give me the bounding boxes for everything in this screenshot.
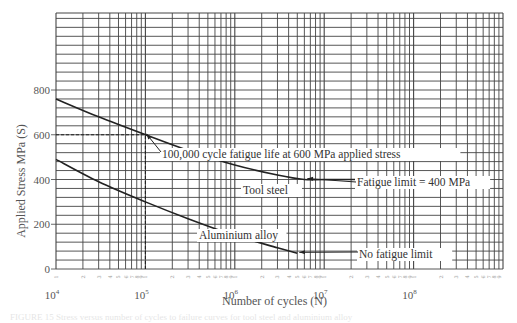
minor-tick-label: 4 bbox=[107, 275, 113, 278]
y-tick-label: 0 bbox=[45, 263, 51, 275]
y-axis-label: Applied Stress MPa (S) bbox=[14, 124, 28, 238]
minor-tick-label: 3 bbox=[364, 275, 370, 278]
minor-tick-label: 5 bbox=[473, 275, 479, 278]
figure-caption: FIGURE 15 Stress versus number of cycles… bbox=[10, 312, 352, 322]
y-tick-label: 600 bbox=[34, 129, 51, 141]
minor-tick-label: 5 bbox=[205, 275, 211, 278]
minor-tick-label: 4 bbox=[464, 275, 470, 278]
minor-tick-label: 4 bbox=[286, 275, 292, 278]
annotation-tool-steel: Tool steel bbox=[241, 184, 302, 197]
svg-text:1: 1 bbox=[53, 275, 59, 278]
minor-tick-label: 3 bbox=[274, 275, 280, 278]
minor-tick-label: 2 bbox=[438, 275, 444, 278]
minor-tick-label: 5 bbox=[294, 275, 300, 278]
sn-curve-chart: 100,000 cycle fatigue life at 600 MPa ap… bbox=[0, 0, 517, 323]
svg-text:Aluminium alloy: Aluminium alloy bbox=[199, 229, 278, 242]
minor-tick-label: 2 bbox=[259, 275, 265, 278]
y-tick-label: 200 bbox=[34, 218, 51, 230]
x-tick-label: 105 bbox=[134, 288, 149, 301]
minor-tick-label: 9 bbox=[496, 275, 502, 278]
y-tick-label: 800 bbox=[34, 84, 51, 96]
annotation-no-fatigue-limit: No fatigue limit bbox=[357, 248, 452, 261]
svg-text:1: 1 bbox=[232, 275, 238, 278]
svg-text:1: 1 bbox=[411, 275, 417, 278]
minor-tick-label: 4 bbox=[196, 275, 202, 278]
annotation-aluminium-alloy: Aluminium alloy bbox=[197, 229, 287, 242]
annotation-100k-cycles: 100,000 cycle fatigue life at 600 MPa ap… bbox=[160, 148, 460, 161]
svg-text:1: 1 bbox=[142, 275, 148, 278]
annotation-fatigue-limit: Fatigue limit = 400 MPa bbox=[355, 176, 490, 189]
minor-tick-label: 2 bbox=[80, 275, 86, 278]
x-tick-label: 104 bbox=[45, 288, 60, 301]
svg-text:No fatigue limit: No fatigue limit bbox=[359, 248, 433, 261]
minor-tick-label: 3 bbox=[453, 275, 459, 278]
minor-tick-label: 3 bbox=[185, 275, 191, 278]
tool-steel-curve bbox=[56, 99, 424, 180]
x-axis-label: Number of cycles (N) bbox=[222, 294, 327, 308]
y-tick-label: 400 bbox=[34, 174, 51, 186]
minor-tick-label: 4 bbox=[375, 275, 381, 278]
minor-tick-label: 2 bbox=[348, 275, 354, 278]
svg-text:100,000 cycle fatigue life at: 100,000 cycle fatigue life at 600 MPa ap… bbox=[162, 148, 401, 161]
x-tick-label: 108 bbox=[402, 288, 417, 301]
minor-tick-label: 3 bbox=[96, 275, 102, 278]
svg-text:Tool steel: Tool steel bbox=[243, 184, 288, 196]
minor-tick-label: 5 bbox=[384, 275, 390, 278]
minor-tick-label: 5 bbox=[115, 275, 121, 278]
svg-text:1: 1 bbox=[321, 275, 327, 278]
minor-tick-label: 2 bbox=[169, 275, 175, 278]
svg-text:Fatigue limit = 400 MPa: Fatigue limit = 400 MPa bbox=[357, 176, 470, 189]
arrow-100k-cycles-icon bbox=[146, 134, 161, 152]
